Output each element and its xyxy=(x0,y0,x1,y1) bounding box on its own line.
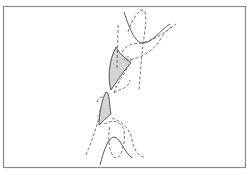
diagram-figure xyxy=(0,0,247,175)
diagram-canvas xyxy=(0,0,247,175)
figure-frame xyxy=(4,7,246,168)
